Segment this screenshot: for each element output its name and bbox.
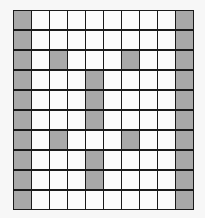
empty-cell [68, 111, 85, 129]
empty-cell [50, 91, 67, 109]
shaded-cell [176, 31, 193, 49]
empty-cell [140, 111, 157, 129]
empty-cell [32, 191, 49, 209]
empty-cell [68, 31, 85, 49]
empty-cell [68, 91, 85, 109]
empty-cell [50, 11, 67, 29]
shaded-cell [14, 151, 31, 169]
shaded-cell [176, 131, 193, 149]
empty-cell [158, 31, 175, 49]
empty-cell [104, 131, 121, 149]
empty-cell [122, 171, 139, 189]
empty-cell [32, 111, 49, 129]
empty-cell [104, 31, 121, 49]
empty-cell [68, 171, 85, 189]
empty-cell [104, 191, 121, 209]
empty-cell [86, 191, 103, 209]
shaded-cell [50, 131, 67, 149]
shaded-cell [14, 51, 31, 69]
empty-cell [158, 11, 175, 29]
empty-cell [140, 131, 157, 149]
empty-cell [104, 151, 121, 169]
shaded-cell [50, 51, 67, 69]
shaded-cell [86, 171, 103, 189]
shaded-cell [122, 51, 139, 69]
empty-cell [104, 171, 121, 189]
empty-cell [68, 51, 85, 69]
empty-cell [140, 11, 157, 29]
empty-cell [50, 111, 67, 129]
empty-cell [32, 91, 49, 109]
empty-cell [32, 151, 49, 169]
empty-cell [104, 91, 121, 109]
empty-cell [140, 91, 157, 109]
empty-cell [140, 31, 157, 49]
shaded-cell [176, 71, 193, 89]
empty-cell [122, 71, 139, 89]
shaded-cell [176, 171, 193, 189]
shaded-cell [14, 11, 31, 29]
empty-cell [122, 151, 139, 169]
empty-cell [158, 151, 175, 169]
shaded-cell [14, 171, 31, 189]
shaded-cell [176, 191, 193, 209]
empty-cell [86, 131, 103, 149]
empty-cell [140, 171, 157, 189]
empty-cell [158, 71, 175, 89]
empty-cell [86, 31, 103, 49]
empty-cell [68, 131, 85, 149]
shaded-cell [86, 151, 103, 169]
empty-cell [158, 111, 175, 129]
shaded-cell [176, 111, 193, 129]
empty-cell [104, 111, 121, 129]
empty-cell [140, 51, 157, 69]
empty-cell [140, 151, 157, 169]
shaded-cell [176, 151, 193, 169]
shaded-cell [86, 111, 103, 129]
empty-cell [122, 31, 139, 49]
empty-cell [50, 171, 67, 189]
shaded-cell [14, 31, 31, 49]
shaded-cell [14, 131, 31, 149]
empty-cell [122, 11, 139, 29]
shaded-cell [86, 71, 103, 89]
empty-cell [158, 91, 175, 109]
empty-cell [32, 131, 49, 149]
empty-cell [104, 11, 121, 29]
empty-cell [68, 151, 85, 169]
shaded-cell [14, 111, 31, 129]
empty-cell [140, 71, 157, 89]
shaded-cell [14, 91, 31, 109]
empty-cell [122, 191, 139, 209]
empty-cell [158, 51, 175, 69]
empty-cell [32, 71, 49, 89]
empty-cell [68, 71, 85, 89]
empty-cell [32, 171, 49, 189]
empty-cell [68, 191, 85, 209]
empty-cell [50, 31, 67, 49]
shaded-cell [122, 131, 139, 149]
empty-cell [50, 71, 67, 89]
empty-cell [68, 11, 85, 29]
empty-cell [158, 171, 175, 189]
empty-cell [50, 191, 67, 209]
shaded-cell [176, 91, 193, 109]
empty-cell [32, 11, 49, 29]
empty-cell [32, 51, 49, 69]
shaded-cell [86, 91, 103, 109]
empty-cell [104, 51, 121, 69]
shaded-grid-diagram [13, 10, 194, 210]
empty-cell [158, 191, 175, 209]
shaded-cell [176, 11, 193, 29]
shaded-cell [14, 191, 31, 209]
empty-cell [32, 31, 49, 49]
empty-cell [86, 11, 103, 29]
empty-cell [158, 131, 175, 149]
empty-cell [122, 111, 139, 129]
empty-cell [140, 191, 157, 209]
empty-cell [50, 151, 67, 169]
shaded-cell [14, 71, 31, 89]
empty-cell [86, 51, 103, 69]
empty-cell [122, 91, 139, 109]
empty-cell [104, 71, 121, 89]
